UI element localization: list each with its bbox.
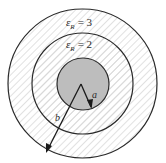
radius-a-label: a (92, 89, 97, 100)
radius-b-label: b (55, 112, 60, 123)
coaxial-diagram: εR= 3 εR= 2 a b (0, 0, 166, 163)
inner-conductor (57, 58, 109, 110)
